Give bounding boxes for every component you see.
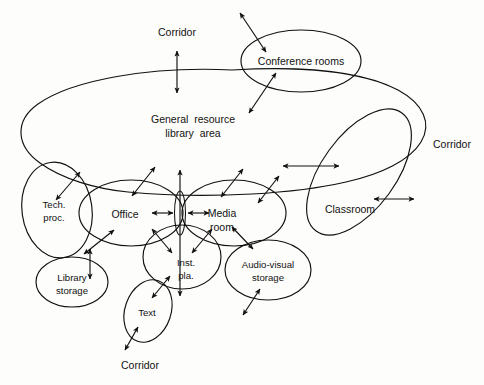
flow-arrow-media-room-upper-right [258,176,279,203]
region-label-classroom: Classroom [325,203,375,215]
region-label-library-storage-line2: storage [56,285,88,296]
region-label-text: Text [138,307,156,318]
region-label-tech-proc-line1: Tech. [43,199,66,210]
flow-arrow-office-inst-pla [152,229,172,253]
region-label-general-resource-library-area-line1: General resource [151,113,235,125]
edge-label-corridor-top: Corridor [158,26,196,38]
flow-arrow-office-top [132,167,155,196]
region-label-media-room-line1: Media [208,207,237,219]
region-label-conference-rooms: Conference rooms [258,55,344,67]
flow-arrow-audio-visual-down [243,289,260,315]
region-label-tech-proc-line2: proc. [43,212,64,223]
edge-label-corridor-right: Corridor [433,138,471,150]
flow-arrow-conference-upper [240,13,266,52]
region-label-inst-pla-line2: pla. [178,270,193,281]
flow-arrow-media-room-inst-pla [192,229,212,253]
flow-arrow-media-room-top [221,169,243,197]
flow-arrow-tech-proc-office [84,230,114,254]
region-label-general-resource-library-area-line2: library area [165,127,221,139]
relationship-bubble-diagram: General resource library area Conference… [0,0,484,385]
flow-arrow-tech-proc-top [56,172,80,200]
region-label-audio-visual-storage-line1: Audio-visual [242,259,294,270]
region-general-resource-library-area[interactable]: General resource library area [21,69,426,196]
region-conference-rooms[interactable]: Conference rooms [241,30,361,92]
region-label-media-room-line2: room [210,221,234,233]
region-library-storage[interactable]: Library storage [36,257,108,307]
region-classroom[interactable]: Classroom [286,91,432,253]
edge-label-corridor-bottom: Corridor [121,359,159,371]
region-label-audio-visual-storage-line2: storage [252,272,284,283]
region-label-office: Office [111,208,138,220]
region-audio-visual-storage[interactable]: Audio-visual storage [225,240,311,300]
region-label-library-storage-line1: Library [57,272,87,283]
diagram-canvas: General resource library area Conference… [0,0,484,385]
region-text[interactable]: Text [116,273,180,348]
